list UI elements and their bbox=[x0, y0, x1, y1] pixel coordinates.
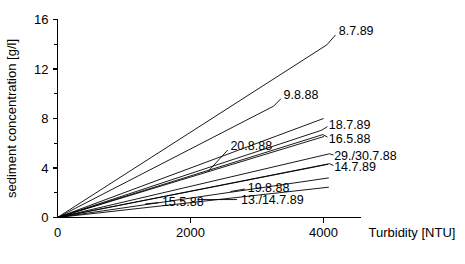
y-tick-label-4: 4 bbox=[41, 161, 48, 176]
series-leader-15.5.88 bbox=[145, 203, 158, 204]
plot-geometry bbox=[53, 20, 361, 223]
series-label-8.7.89: 8.7.89 bbox=[339, 24, 374, 38]
series-label-9.8.88: 9.8.88 bbox=[284, 88, 319, 102]
x-tick-label-2000: 2000 bbox=[176, 225, 205, 240]
series-leader-29./30.7.88 bbox=[329, 154, 333, 155]
y-tick-label-0: 0 bbox=[41, 210, 48, 225]
series-label-13./14.7.89: 13./14.7.89 bbox=[241, 193, 304, 207]
series-label-15.5.88: 15.5.88 bbox=[162, 195, 204, 209]
series-leader-18.7.89 bbox=[322, 127, 328, 131]
series-label-14.7.89: 14.7.89 bbox=[334, 160, 376, 174]
sediment-turbidity-chart: 8.7.899.8.8818.7.8916.5.8829./30.7.8814.… bbox=[0, 0, 465, 264]
y-tick-label-12: 12 bbox=[34, 62, 48, 77]
chart-page: 8.7.899.8.8818.7.8916.5.8829./30.7.8814.… bbox=[0, 0, 465, 264]
x-tick-label-4000: 4000 bbox=[309, 225, 338, 240]
series-label-16.5.88: 16.5.88 bbox=[329, 132, 371, 146]
series-label-20.8.88: 20.8.88 bbox=[230, 139, 272, 153]
series-leader-8.7.89 bbox=[327, 35, 336, 45]
series-leader-9.8.88 bbox=[274, 99, 281, 106]
series-leader-14.7.89 bbox=[329, 164, 333, 166]
y-tick-label-8: 8 bbox=[41, 111, 48, 126]
series-label-18.7.89: 18.7.89 bbox=[329, 118, 371, 132]
y-axis-title: sediment concentration [g/l] bbox=[4, 39, 19, 198]
x-tick-label-0: 0 bbox=[54, 225, 61, 240]
series-label-group: 8.7.899.8.8818.7.8916.5.8829./30.7.8814.… bbox=[145, 24, 396, 209]
axis-text-group: 0481216020004000Turbidity [NTU]sediment … bbox=[4, 12, 455, 240]
x-axis-title: Turbidity [NTU] bbox=[369, 225, 456, 240]
y-tick-label-16: 16 bbox=[34, 12, 48, 27]
